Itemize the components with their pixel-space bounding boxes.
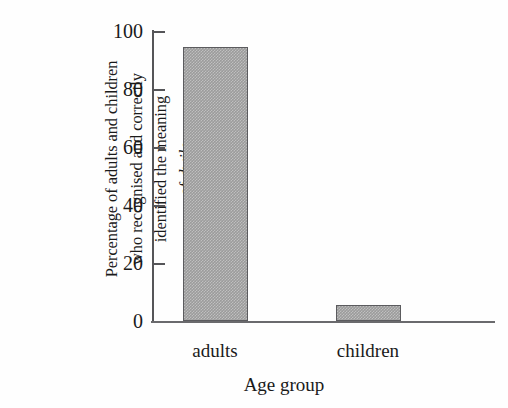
y-axis-tick-mark — [152, 205, 165, 207]
y-axis-title: Percentage of adults and children who re… — [0, 0, 100, 340]
y-axis-tick-label: 20 — [123, 253, 143, 273]
y-axis-tick-label: 100 — [113, 21, 143, 41]
bar-children — [336, 305, 401, 321]
y-axis-tick-label: 60 — [123, 137, 143, 157]
x-axis-spine — [151, 321, 495, 323]
bar-adults — [183, 47, 248, 321]
y-axis-title-line-2: who recognised and correctly — [125, 73, 150, 265]
y-axis-tick-mark — [152, 263, 165, 265]
x-axis-label-children: children — [337, 341, 399, 360]
bar-chart-figure: Percentage of adults and children who re… — [0, 0, 508, 408]
y-axis-tick-label: 0 — [133, 311, 143, 331]
y-axis-tick-mark — [152, 31, 165, 33]
y-axis-spine — [152, 30, 154, 322]
x-axis-label-adults: adults — [192, 341, 237, 360]
y-axis-title-line-1: Percentage of adults and children — [100, 61, 125, 278]
y-axis-tick-mark — [152, 147, 165, 149]
plot-area: 020406080100 — [152, 31, 495, 321]
x-axis-title: Age group — [0, 375, 508, 394]
y-axis-tick-label: 80 — [123, 79, 143, 99]
y-axis-tick-label: 40 — [123, 195, 143, 215]
y-axis-tick-mark — [152, 89, 165, 91]
